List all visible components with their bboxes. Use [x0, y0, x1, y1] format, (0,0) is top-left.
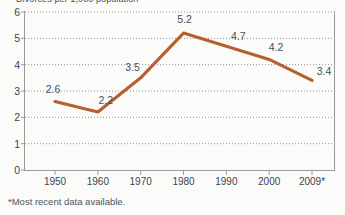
- chart-screenshot: Divorces per 1,000 population 0123456 19…: [0, 0, 345, 215]
- gridlines: [25, 12, 334, 144]
- y-axis-tick-label: 4: [2, 59, 20, 71]
- data-point-label: 3.5: [125, 61, 140, 73]
- data-point-label: 2.6: [46, 83, 61, 95]
- x-axis-tick-label: 1950: [44, 176, 66, 187]
- x-axis-tick-label: 1980: [172, 176, 194, 187]
- data-point-label: 2.2: [99, 94, 114, 106]
- x-axis-tick-label: 1970: [130, 176, 152, 187]
- x-axis-tick-label: 1990: [215, 176, 237, 187]
- y-axis-tick-label: 0: [2, 164, 20, 176]
- data-point-label: 4.2: [269, 41, 284, 53]
- y-axis-tick-label: 3: [2, 85, 20, 97]
- chart-footnote: *Most recent data available.: [8, 196, 125, 207]
- data-point-label: 5.2: [177, 13, 192, 25]
- x-axis-tick-label: 2009*: [299, 176, 325, 187]
- y-axis-tick-label: 1: [2, 138, 20, 150]
- x-axis-tick-label: 1960: [87, 176, 109, 187]
- y-axis-tick-label: 2: [2, 111, 20, 123]
- x-tick-marks: [55, 170, 312, 175]
- y-tick-marks: [21, 12, 25, 170]
- y-axis-tick-label: 5: [2, 32, 20, 44]
- data-point-label: 4.7: [231, 30, 246, 42]
- y-axis-tick-label: 6: [2, 6, 20, 18]
- data-point-label: 3.4: [317, 65, 332, 77]
- x-axis-tick-label: 2000: [258, 176, 280, 187]
